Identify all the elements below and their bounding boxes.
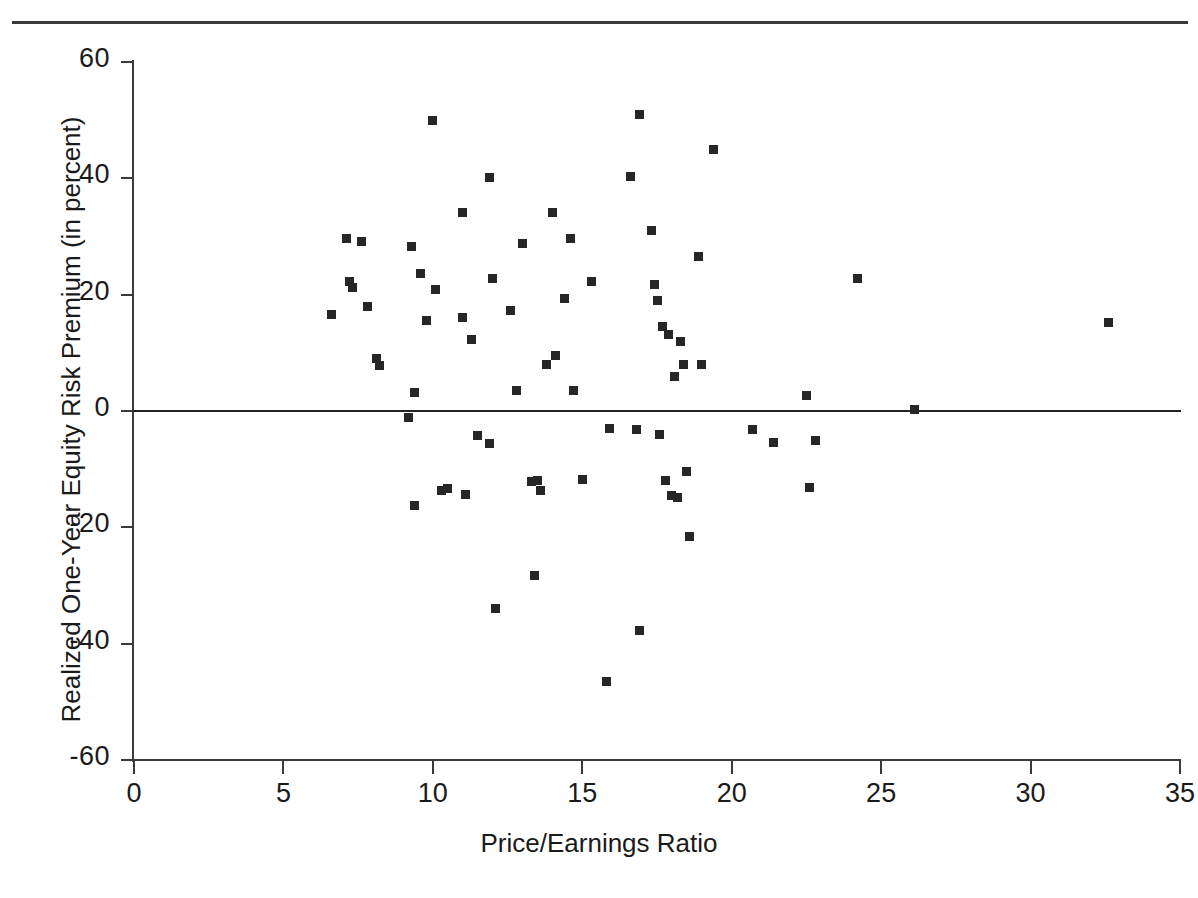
- data-point: [512, 386, 521, 395]
- data-point: [327, 310, 336, 319]
- x-axis-tick-label: 15: [542, 778, 622, 809]
- y-axis-tick: [121, 177, 133, 179]
- data-point: [348, 283, 357, 292]
- data-point: [748, 425, 757, 434]
- x-axis-title: Price/Earnings Ratio: [0, 828, 1198, 859]
- data-point: [1104, 318, 1113, 327]
- data-point: [410, 388, 419, 397]
- data-point: [679, 360, 688, 369]
- data-point: [485, 439, 494, 448]
- data-point: [375, 361, 384, 370]
- y-axis-tick: [121, 410, 133, 412]
- x-axis-tick-label: 0: [94, 778, 174, 809]
- data-point: [548, 208, 557, 217]
- data-point: [650, 280, 659, 289]
- data-point: [685, 532, 694, 541]
- data-point: [769, 438, 778, 447]
- data-point: [357, 237, 366, 246]
- x-axis-tick: [282, 761, 284, 774]
- data-point: [410, 501, 419, 510]
- data-point: [653, 296, 662, 305]
- data-point: [655, 430, 664, 439]
- data-point: [416, 269, 425, 278]
- data-point: [853, 274, 862, 283]
- data-point: [635, 626, 644, 635]
- x-axis-tick: [1179, 761, 1181, 774]
- data-point: [676, 337, 685, 346]
- data-point: [342, 234, 351, 243]
- data-point: [467, 335, 476, 344]
- data-point: [404, 413, 413, 422]
- y-axis-title: Realized One-Year Equity Risk Premium (i…: [56, 70, 87, 770]
- data-point: [697, 360, 706, 369]
- data-point: [626, 172, 635, 181]
- data-point: [709, 145, 718, 154]
- y-axis-tick: [121, 759, 133, 761]
- data-point: [542, 360, 551, 369]
- scatter-plot-figure: -60-40-200204060 05101520253035 Price/Ea…: [0, 0, 1198, 898]
- x-axis-tick-label: 5: [243, 778, 323, 809]
- data-point: [551, 351, 560, 360]
- data-point: [670, 372, 679, 381]
- data-point: [422, 316, 431, 325]
- data-point: [491, 604, 500, 613]
- data-point: [431, 285, 440, 294]
- data-point: [602, 677, 611, 686]
- x-axis-tick-label: 10: [393, 778, 473, 809]
- data-point: [473, 431, 482, 440]
- plot-area: [134, 62, 1180, 760]
- data-point: [506, 306, 515, 315]
- x-axis-tick: [581, 761, 583, 774]
- x-axis-tick: [1030, 761, 1032, 774]
- y-axis-tick: [121, 643, 133, 645]
- data-point: [458, 208, 467, 217]
- data-point: [530, 571, 539, 580]
- data-point: [578, 475, 587, 484]
- data-point: [587, 277, 596, 286]
- data-point: [811, 436, 820, 445]
- data-point: [910, 405, 919, 414]
- data-point: [647, 226, 656, 235]
- data-point: [443, 484, 452, 493]
- x-axis-tick: [133, 761, 135, 774]
- data-point: [673, 493, 682, 502]
- data-point: [635, 110, 644, 119]
- data-point: [664, 330, 673, 339]
- data-point: [682, 467, 691, 476]
- data-point: [632, 425, 641, 434]
- data-point: [536, 486, 545, 495]
- y-axis-tick: [121, 61, 133, 63]
- data-point: [363, 302, 372, 311]
- data-point: [802, 391, 811, 400]
- data-point: [488, 274, 497, 283]
- x-axis-tick: [432, 761, 434, 774]
- x-axis-tick-label: 30: [991, 778, 1071, 809]
- data-point: [461, 490, 470, 499]
- data-point: [428, 116, 437, 125]
- data-point: [605, 424, 614, 433]
- data-point: [566, 234, 575, 243]
- x-axis-tick-label: 35: [1140, 778, 1198, 809]
- x-axis-tick: [731, 761, 733, 774]
- data-point: [661, 476, 670, 485]
- data-point: [694, 252, 703, 261]
- data-point: [485, 173, 494, 182]
- data-point: [518, 239, 527, 248]
- x-axis-tick: [880, 761, 882, 774]
- data-point: [407, 242, 416, 251]
- x-axis-tick-label: 25: [841, 778, 921, 809]
- data-point: [560, 294, 569, 303]
- y-axis-tick: [121, 294, 133, 296]
- data-point: [805, 483, 814, 492]
- data-point: [458, 313, 467, 322]
- y-axis-tick: [121, 526, 133, 528]
- data-point: [569, 386, 578, 395]
- top-divider-rule: [12, 21, 1188, 24]
- y-axis-tick-label: 0: [94, 392, 110, 423]
- x-axis-tick-label: 20: [692, 778, 772, 809]
- data-point: [533, 476, 542, 485]
